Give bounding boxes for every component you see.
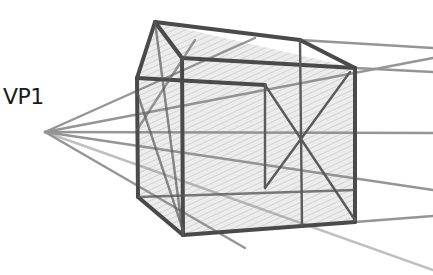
cube-sketch xyxy=(0,0,433,275)
perspective-drawing: VP1 xyxy=(0,0,433,275)
